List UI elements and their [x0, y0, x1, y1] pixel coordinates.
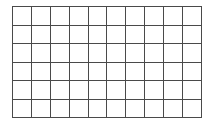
grid-cell — [13, 81, 32, 100]
grid-cell — [50, 44, 69, 63]
grid-cell — [50, 81, 69, 100]
grid-cell — [13, 7, 32, 26]
grid-cell — [145, 44, 164, 63]
grid-cell — [31, 62, 50, 81]
grid-cell — [145, 99, 164, 118]
grid-cell — [183, 44, 202, 63]
grid-cell — [88, 25, 107, 44]
grid-cell — [164, 25, 183, 44]
grid-cell — [126, 25, 145, 44]
grid-row — [13, 99, 202, 118]
grid-cell — [164, 99, 183, 118]
grid-cell — [13, 44, 32, 63]
grid-cell — [107, 99, 126, 118]
grid-cell — [69, 62, 88, 81]
grid-cell — [107, 81, 126, 100]
grid-cell — [31, 7, 50, 26]
grid-cell — [183, 7, 202, 26]
grid-table — [12, 6, 202, 118]
grid-cell — [107, 7, 126, 26]
grid-cell — [69, 7, 88, 26]
grid-cell — [88, 62, 107, 81]
grid-cell — [145, 7, 164, 26]
grid-cell — [13, 25, 32, 44]
grid-cell — [107, 25, 126, 44]
grid-cell — [145, 81, 164, 100]
grid-cell — [88, 44, 107, 63]
grid-row — [13, 81, 202, 100]
grid-cell — [88, 81, 107, 100]
grid-figure — [12, 6, 202, 118]
grid-cell — [31, 25, 50, 44]
grid-cell — [126, 62, 145, 81]
grid-cell — [183, 25, 202, 44]
grid-cell — [69, 99, 88, 118]
grid-body — [13, 7, 202, 118]
grid-cell — [164, 7, 183, 26]
grid-cell — [107, 62, 126, 81]
grid-cell — [31, 81, 50, 100]
grid-cell — [31, 44, 50, 63]
grid-cell — [50, 99, 69, 118]
grid-row — [13, 7, 202, 26]
grid-row — [13, 62, 202, 81]
grid-cell — [13, 99, 32, 118]
grid-cell — [164, 62, 183, 81]
grid-cell — [126, 44, 145, 63]
grid-cell — [126, 81, 145, 100]
grid-row — [13, 25, 202, 44]
grid-cell — [164, 44, 183, 63]
grid-cell — [126, 7, 145, 26]
grid-cell — [69, 44, 88, 63]
grid-cell — [183, 99, 202, 118]
grid-cell — [50, 62, 69, 81]
grid-cell — [69, 81, 88, 100]
grid-cell — [145, 25, 164, 44]
grid-cell — [183, 62, 202, 81]
grid-cell — [126, 99, 145, 118]
grid-cell — [183, 81, 202, 100]
grid-row — [13, 44, 202, 63]
grid-cell — [88, 7, 107, 26]
grid-cell — [145, 62, 164, 81]
grid-cell — [107, 44, 126, 63]
grid-cell — [50, 7, 69, 26]
grid-cell — [164, 81, 183, 100]
grid-cell — [50, 25, 69, 44]
grid-cell — [69, 25, 88, 44]
grid-cell — [31, 99, 50, 118]
grid-cell — [88, 99, 107, 118]
grid-cell — [13, 62, 32, 81]
